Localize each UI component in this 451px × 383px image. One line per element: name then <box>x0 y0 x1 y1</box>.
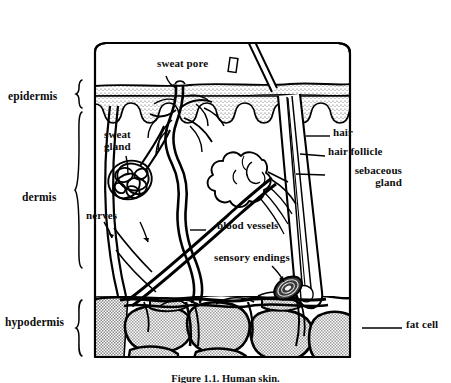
part-label-nerves: nerves <box>86 210 117 222</box>
layer-label-epidermis: epidermis <box>8 90 57 102</box>
skin-cross-section-illustration <box>0 0 451 383</box>
part-label-fat-cell: fat cell <box>406 319 438 331</box>
part-label-sebaceous-gland: sebaceous gland <box>328 165 402 189</box>
part-label-blood-vessels: blood vessels <box>217 220 279 232</box>
sweat-gland-line-2: gland <box>104 140 131 152</box>
sweat-gland-line-1: sweat <box>104 128 131 140</box>
part-label-hair-follicle: hair follicle <box>328 146 383 158</box>
layer-label-hypodermis: hypodermis <box>5 316 64 328</box>
figure-caption: Figure 1.1. Human skin. <box>0 373 451 383</box>
layer-label-dermis: dermis <box>22 191 56 203</box>
sebaceous-gland-line-1: sebaceous <box>355 164 402 176</box>
part-label-hair: hair <box>333 127 353 139</box>
part-label-sweat-gland: sweat gland <box>104 129 150 153</box>
sebaceous-gland-line-2: gland <box>375 176 402 188</box>
part-label-sweat-pore: sweat pore <box>157 58 208 70</box>
part-label-sensory-endings: sensory endings <box>214 252 290 264</box>
skin-diagram-figure: epidermis dermis hypodermis sweat pore s… <box>0 0 451 383</box>
